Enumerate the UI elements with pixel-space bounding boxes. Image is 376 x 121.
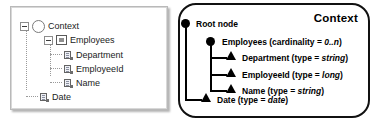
- tree-node-department[interactable]: Department: [62, 48, 123, 62]
- tree-node-context[interactable]: Context: [20, 19, 79, 33]
- tree-node-name[interactable]: Name: [62, 76, 100, 90]
- tree-node-label: Date: [52, 92, 71, 102]
- schema-connector-horizontal-name: [210, 90, 227, 92]
- schema-row-tail: ): [339, 37, 342, 47]
- schema-row-text: Date (type =: [217, 95, 268, 105]
- attribute-node-icon: [40, 93, 49, 102]
- schema-row-employeeid: EmployeeId (type = long): [242, 70, 343, 80]
- tree-view-panel: Context Employees Department Emplo: [10, 6, 168, 110]
- tree-view-inner-border: Context Employees Department Emplo: [11, 7, 167, 109]
- diagram-canvas: Context Employees Department Emplo: [0, 0, 376, 121]
- attribute-node-icon: [64, 51, 73, 60]
- schema-connector-horizontal-date: [185, 99, 202, 101]
- filled-circle-marker-employees: [206, 37, 215, 46]
- attribute-node-icon: [64, 79, 73, 88]
- filled-circle-marker-root: [181, 19, 190, 28]
- element-node-icon: [56, 35, 67, 45]
- schematic-notation-panel: Context Root node Employees (cardinality…: [178, 3, 370, 118]
- tree-node-employees[interactable]: Employees: [44, 33, 115, 47]
- schema-connector-horizontal-employeeid: [210, 74, 227, 76]
- schema-row-department: Department (type = string): [242, 53, 348, 63]
- filled-triangle-marker-employeeid: [226, 68, 236, 77]
- tree-connector-horizontal-date: [26, 96, 38, 97]
- schema-row-text: Employees (cardinality =: [222, 37, 324, 47]
- schema-row-tail: ): [321, 86, 324, 96]
- tree-connector-horizontal-name: [50, 82, 62, 83]
- tree-node-label: Context: [48, 21, 79, 31]
- tree-node-label: Name: [76, 78, 100, 88]
- circle-node-icon: [32, 20, 45, 33]
- filled-triangle-marker-department: [226, 51, 236, 60]
- schema-connector-vertical-root: [185, 25, 187, 101]
- schema-row-italic: date: [268, 95, 285, 105]
- schema-context-title: Context: [314, 12, 358, 24]
- schema-row-italic: 0..n: [324, 37, 339, 47]
- schema-row-tail: ): [345, 53, 348, 63]
- schema-row-text: EmployeeId (type =: [242, 70, 322, 80]
- schema-row-employees: Employees (cardinality = 0..n): [222, 37, 342, 47]
- schema-row-tail: ): [340, 70, 343, 80]
- schema-row-italic: string: [322, 53, 346, 63]
- schema-row-root-node: Root node: [196, 19, 238, 29]
- attribute-node-icon: [64, 65, 73, 74]
- schema-row-date: Date (type = date): [217, 95, 288, 105]
- filled-triangle-marker-date: [201, 93, 211, 102]
- tree-node-label: Department: [76, 50, 123, 60]
- tree-node-employeeid[interactable]: EmployeeId: [62, 62, 124, 76]
- filled-triangle-marker-name: [226, 84, 236, 93]
- tree-connector-horizontal-department: [50, 54, 62, 55]
- schema-connector-vertical-employees: [210, 43, 212, 91]
- schema-row-tail: ): [285, 95, 288, 105]
- schema-connector-horizontal-department: [210, 57, 227, 59]
- tree-node-label: Employees: [70, 35, 115, 45]
- collapse-toggle-icon[interactable]: [44, 36, 53, 45]
- tree-connector-horizontal-employeeid: [50, 68, 62, 69]
- schema-row-italic: long: [322, 70, 340, 80]
- tree-connector-vertical-root: [26, 26, 27, 90]
- tree-node-date[interactable]: Date: [38, 90, 71, 104]
- schema-row-text: Department (type =: [242, 53, 322, 63]
- collapse-toggle-icon[interactable]: [20, 22, 29, 31]
- tree-node-label: EmployeeId: [76, 64, 124, 74]
- schema-row-italic: string: [298, 86, 322, 96]
- schema-row-text: Root node: [196, 19, 238, 29]
